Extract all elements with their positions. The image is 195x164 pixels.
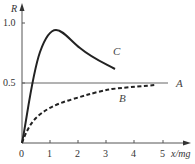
x-tick-label-1: 1	[47, 148, 52, 159]
series-c-label: C	[113, 45, 121, 57]
x-axis-label: x/mg	[170, 148, 190, 159]
x-tick-label-2: 2	[75, 148, 80, 159]
x-tick-label-3: 3	[103, 148, 108, 159]
y-axis-arrow-icon	[20, 3, 25, 11]
series-b-label: B	[119, 92, 126, 104]
x-tick-label-5: 5	[160, 148, 165, 159]
y-axis-label: R	[10, 3, 17, 14]
x-tick-label-4: 4	[131, 148, 136, 159]
x-axis-arrow-icon	[183, 141, 191, 146]
y-tick-label-1: 1.0	[3, 17, 16, 28]
series-a-label: A	[175, 77, 183, 89]
x-tick-label-0: 0	[19, 148, 24, 159]
y-tick-label-05: 0.5	[3, 77, 16, 88]
series-b-curve	[22, 85, 155, 143]
series-c-curve	[22, 30, 115, 143]
chart: R 1.0 0.5 0 1 2 3 4 5 x/mg C A B	[0, 0, 195, 164]
